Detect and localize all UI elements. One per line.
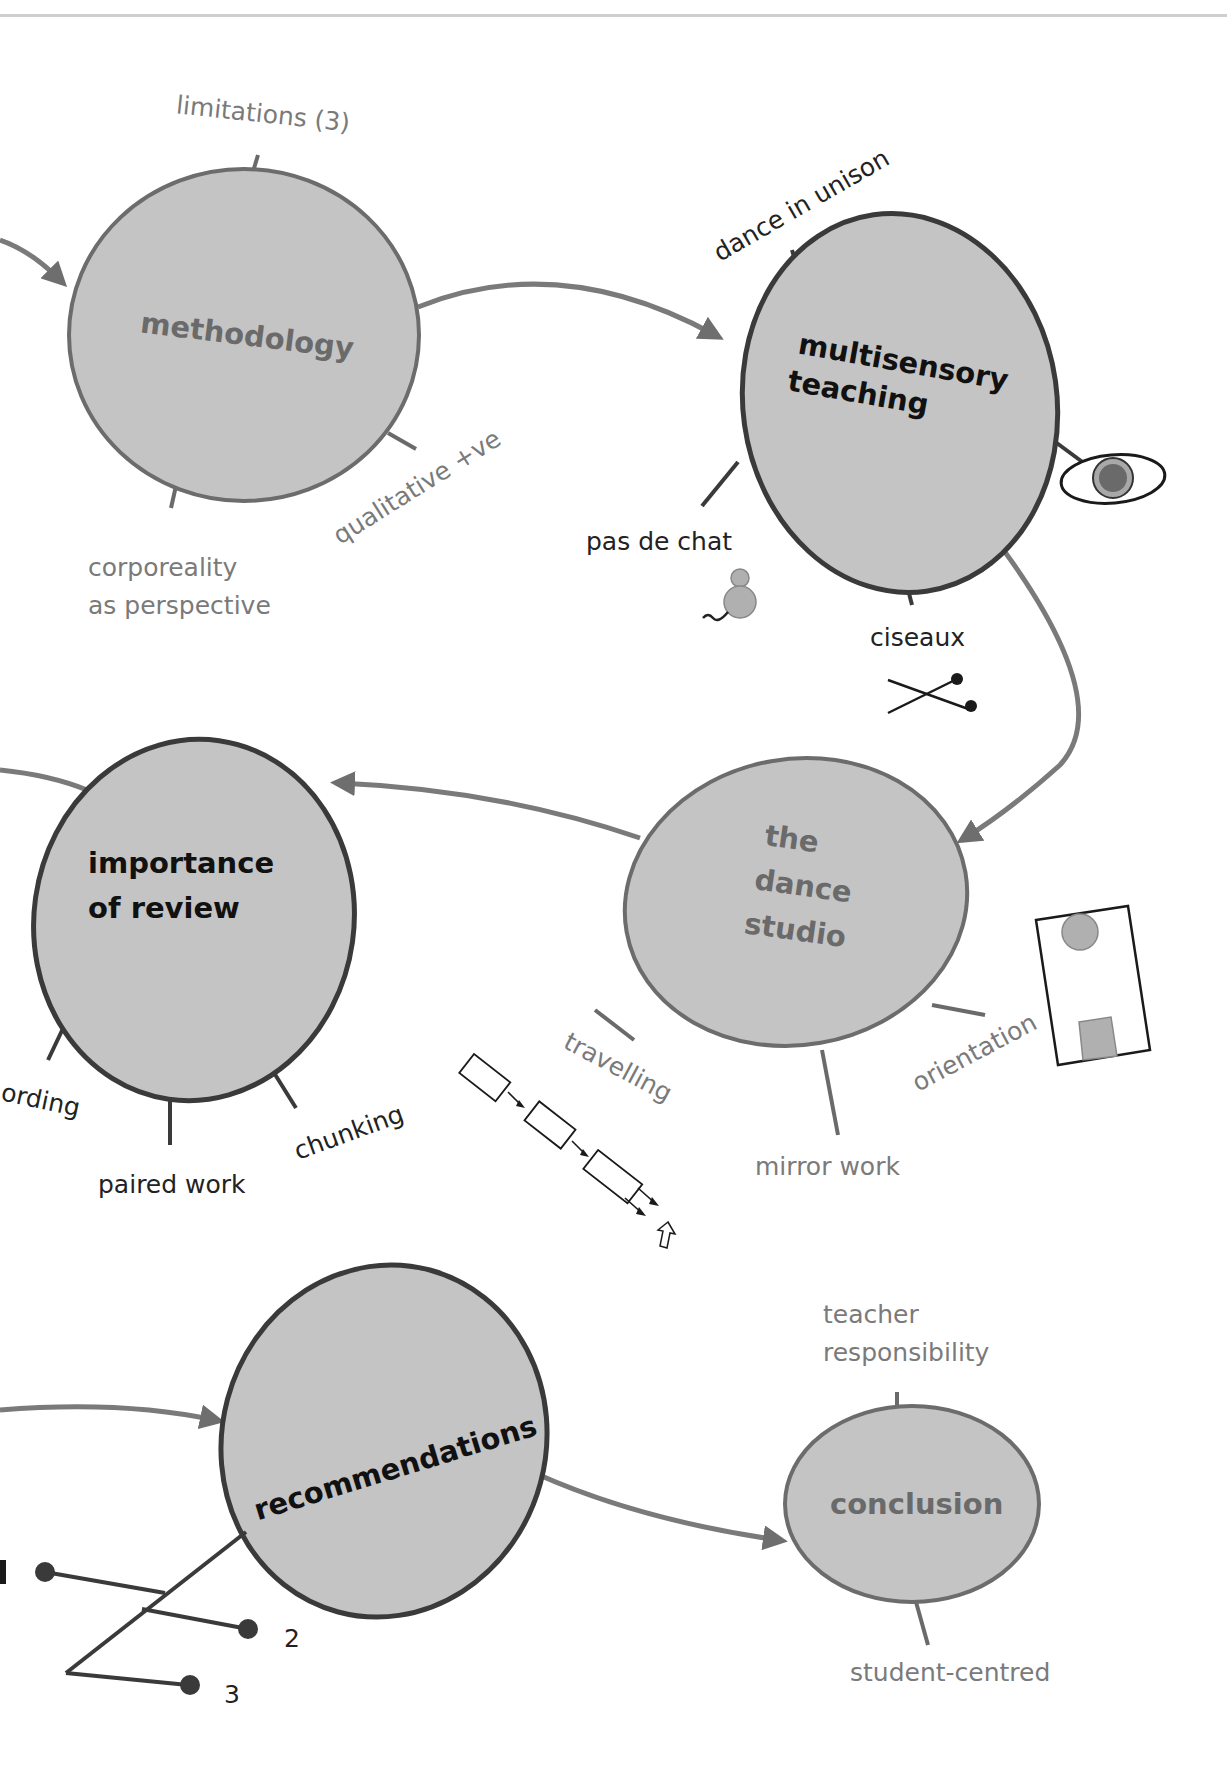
- node-importance-of-review[interactable]: importance of review ording paired work …: [0, 718, 408, 1199]
- node-multisensory-teaching[interactable]: multisensory teaching dance in unison pa…: [586, 143, 1167, 713]
- branch-limitations: limitations (3): [175, 90, 352, 137]
- branch-line-qualitative: [388, 433, 416, 449]
- mouse-icon: [703, 569, 756, 620]
- branch-orientation: orientation: [907, 1007, 1041, 1097]
- mind-map-diagram: methodology limitations (3) qualitative …: [0, 0, 1227, 1780]
- branch-recording: ording: [0, 1078, 83, 1123]
- review-title-line1: importance: [88, 846, 274, 880]
- list-item-2: 2: [284, 1624, 300, 1653]
- scissors-icon: [888, 673, 977, 713]
- dance-studio-circle: [602, 731, 990, 1072]
- connector-incoming-recommendations: [0, 1407, 215, 1420]
- connector-review-outgoing-left: [0, 770, 87, 790]
- branch-line-mirror-work: [822, 1050, 838, 1135]
- branch-line-travelling: [595, 1010, 634, 1040]
- branch-pas-de-chat: pas de chat: [586, 527, 732, 556]
- branch-mirror-work: mirror work: [755, 1152, 900, 1181]
- branch-travelling: travelling: [559, 1027, 677, 1108]
- list-item-1-edge: [0, 1560, 6, 1584]
- branch-student-centred: student-centred: [850, 1658, 1050, 1687]
- branch-teacher-line1: teacher: [823, 1300, 919, 1329]
- conclusion-title: conclusion: [830, 1487, 1003, 1521]
- branch-corporeality-line1: corporeality: [88, 553, 238, 582]
- studio-orientation-icon: [1036, 906, 1150, 1065]
- connector-methodology-to-multisensory: [418, 284, 715, 335]
- connector-incoming-methodology: [0, 240, 60, 280]
- branch-line-pas-de-chat: [702, 462, 738, 506]
- list-bullet-3: [180, 1675, 200, 1695]
- node-methodology[interactable]: methodology limitations (3) qualitative …: [69, 90, 506, 620]
- connector-multisensory-to-dance-studio: [965, 528, 1079, 838]
- node-recommendations[interactable]: recommendations 2 3: [0, 1228, 586, 1709]
- branch-ciseaux: ciseaux: [870, 623, 965, 652]
- connector-recommendations-to-conclusion: [537, 1474, 778, 1540]
- list-bullet-1: [35, 1562, 55, 1582]
- node-conclusion[interactable]: conclusion teacher responsibility studen…: [785, 1300, 1050, 1687]
- list-item-3: 3: [224, 1680, 240, 1709]
- branch-paired-work: paired work: [98, 1170, 246, 1199]
- node-dance-studio[interactable]: the dance studio travelling mirror work …: [459, 731, 1150, 1248]
- branch-line-orientation: [932, 1005, 985, 1015]
- list-bullet-2: [238, 1619, 258, 1639]
- branch-line-student-centred: [916, 1602, 928, 1645]
- connector-dance-studio-to-review: [340, 783, 640, 838]
- branch-teacher-line2: responsibility: [823, 1338, 990, 1367]
- branch-chunking: chunking: [290, 1099, 407, 1165]
- branch-corporeality-line2: as perspective: [88, 591, 271, 620]
- review-title-line2: of review: [88, 891, 240, 925]
